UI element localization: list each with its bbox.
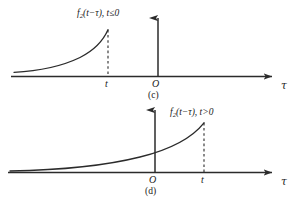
panel-d-t-label: t [201,175,204,185]
panel-d-caption: (d) [145,187,156,197]
panel-d-graph [8,110,272,173]
panel-c-curve-label: f2(t−τ), t≤0 [77,9,119,19]
panel-d-curve-label: f2(t−τ), t>0 [170,108,213,118]
panel-d-axis-label: τ [281,176,287,187]
panel-c-curve-label-condition: , t≤0 [102,8,119,18]
panel-c-graph [11,18,272,77]
panel-d-origin-label: O [149,175,156,185]
panel-c-t-label: t [105,79,108,89]
panel-d-curve [10,123,204,171]
panel-c-axis-label: τ [281,80,287,91]
figure-container: f2(t−τ), t≤0 t O τ (c) f2(t−τ), t>0 O t … [0,0,303,208]
panel-c-caption: (c) [148,91,159,101]
panel-c-curve [14,30,108,73]
panel-d-curve-label-argument: (t−τ) [176,107,195,117]
panel-c-origin-label: O [152,79,159,89]
panel-d-curve-label-condition: , t>0 [195,107,214,117]
panel-c-curve-label-argument: (t−τ) [83,8,102,18]
